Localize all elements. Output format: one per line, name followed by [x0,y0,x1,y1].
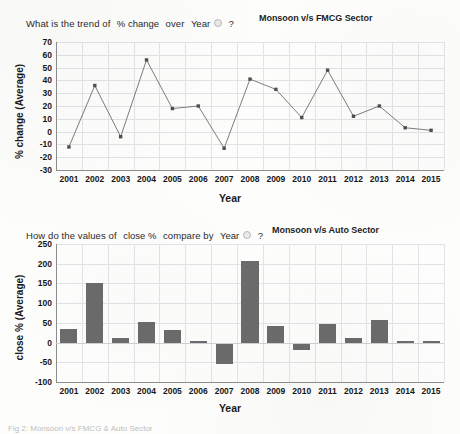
data-point-2012[interactable] [352,115,355,118]
x-axis-tick: 2001 [59,174,78,184]
x-axis-tick: 2009 [266,386,285,396]
plot-wrapper-fmcg: Year 706050403020100-10-20-3020012002200… [0,0,460,212]
data-point-2015[interactable] [429,129,432,132]
data-point-2003[interactable] [119,135,122,138]
x-axis-tick: 2014 [396,386,415,396]
screenshot-root: What is the trend of % change over Year … [0,0,460,434]
data-point-2006[interactable] [197,104,200,107]
gridline-vertical [82,244,83,382]
bar-2011[interactable] [319,324,336,342]
x-axis-tick: 2003 [111,386,130,396]
x-axis-tick: 2006 [189,386,208,396]
bar-2004[interactable] [138,322,155,343]
gridline-horizontal [56,362,444,363]
data-point-2010[interactable] [300,116,303,119]
data-point-2005[interactable] [171,107,174,110]
x-axis-tick: 2013 [370,386,389,396]
bar-2002[interactable] [86,283,103,342]
data-point-2014[interactable] [404,126,407,129]
y-axis-tick: 100 [38,298,52,308]
x-axis-tick: 2007 [215,174,234,184]
gridline-vertical [444,42,445,170]
x-axis-tick: 2004 [137,386,156,396]
zero-line [56,343,444,344]
plot-wrapper-auto: Year 250200150100500-50-1002001200220032… [0,212,460,417]
gridline-vertical [289,244,290,382]
x-axis-tick: 2001 [59,386,78,396]
y-axis-tick: 20 [43,101,52,111]
y-axis-tick: -30 [40,165,52,175]
data-point-2011[interactable] [326,68,329,71]
figure-caption: Fig 2: Monsoon v/s FMCG & Auto Sector [8,424,153,433]
gridline-vertical [366,244,367,382]
x-axis-tick: 2009 [266,174,285,184]
data-point-2001[interactable] [67,145,70,148]
bar-2008[interactable] [241,261,258,343]
gridline-vertical [159,244,160,382]
y-axis-tick: -50 [40,357,52,367]
data-point-2004[interactable] [145,58,148,61]
x-axis-tick: 2013 [370,174,389,184]
gridline-vertical [315,244,316,382]
x-axis-tick: 2006 [189,174,208,184]
x-axis-tick: 2011 [318,174,336,184]
line-series [56,42,444,170]
gridline-vertical [185,244,186,382]
y-axis-tick: 0 [47,127,52,137]
y-axis-tick: 70 [43,37,52,47]
bar-2001[interactable] [60,329,77,343]
y-axis-tick: 50 [43,63,52,73]
data-point-2007[interactable] [222,147,225,150]
x-axis-tick: 2008 [241,174,260,184]
y-axis-tick: 150 [38,278,52,288]
x-axis-tick: 2011 [318,386,336,396]
y-axis-tick: 40 [43,75,52,85]
chart-panel-fmcg: What is the trend of % change over Year … [0,0,460,212]
x-axis-tick: 2002 [85,174,104,184]
x-axis-tick: 2010 [292,174,311,184]
x-axis-line [56,382,444,383]
plot-area-fmcg [56,42,444,170]
gridline-vertical [418,244,419,382]
gridline-vertical [341,244,342,382]
y-axis-tick: -20 [40,152,52,162]
y-axis-tick: 200 [38,259,52,269]
bar-2007[interactable] [216,343,233,365]
bar-2013[interactable] [371,320,388,343]
x-axis-tick: 2015 [422,174,441,184]
data-point-2009[interactable] [274,88,277,91]
x-axis-tick: 2012 [344,174,363,184]
x-axis-tick: 2015 [422,386,441,396]
y-axis-tick: -100 [35,377,52,387]
x-axis-tick: 2005 [163,386,182,396]
bar-2005[interactable] [164,330,181,343]
x-axis-tick: 2010 [292,386,311,396]
x-axis-tick: 2003 [111,174,130,184]
data-point-2008[interactable] [248,77,251,80]
y-axis-tick: 50 [43,318,52,328]
y-axis-tick: 60 [43,50,52,60]
x-axis-tick: 2004 [137,174,156,184]
y-axis-line [56,244,57,382]
x-axis-label-auto: Year [0,402,460,414]
x-axis-tick: 2007 [215,386,234,396]
bar-2010[interactable] [293,343,310,350]
data-point-2013[interactable] [378,104,381,107]
gridline-vertical [108,244,109,382]
x-axis-tick: 2002 [85,386,104,396]
gridline-horizontal [56,244,444,245]
gridline-vertical [392,244,393,382]
x-axis-line [56,170,444,171]
y-axis-tick: 250 [38,239,52,249]
plot-area-auto [56,244,444,382]
x-axis-tick: 2012 [344,386,363,396]
x-axis-tick: 2005 [163,174,182,184]
chart-panel-auto: How do the values of close % compare by … [0,212,460,417]
gridline-vertical [237,244,238,382]
x-axis-tick: 2014 [396,174,415,184]
data-point-2002[interactable] [93,84,96,87]
y-axis-tick: 0 [47,338,52,348]
gridline-vertical [134,244,135,382]
bar-2009[interactable] [267,326,284,343]
y-axis-tick: 30 [43,88,52,98]
